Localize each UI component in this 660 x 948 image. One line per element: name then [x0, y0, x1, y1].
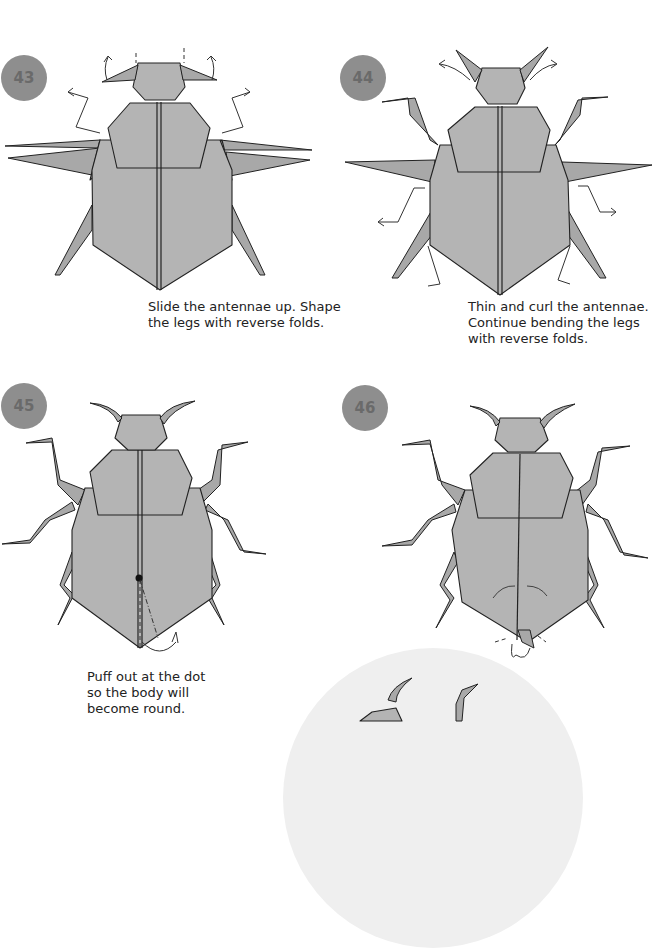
beetle-diagram-step-46-icon — [330, 380, 660, 660]
step-46: 46 — [330, 380, 660, 660]
